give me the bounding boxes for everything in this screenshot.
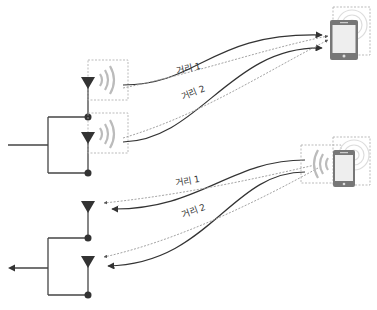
wave-icon [100,66,114,94]
junction-dot [85,292,92,299]
bottom-panel: 거리 1 거리 2 [8,137,370,299]
antenna-diagram: 거리 1 거리 2 [0,0,377,310]
tx-signal-paths [123,35,328,142]
antenna-icon [81,77,95,89]
label-distance-1: 거리 1 [175,61,201,76]
junction-dot [85,235,92,242]
rx-signal-paths [104,160,318,266]
wave-icon [314,150,328,178]
rx-phone [301,137,370,187]
tx-antenna-1 [81,60,128,100]
rx-feed-circuit [14,207,88,295]
antenna-icon [81,201,95,213]
tx-feed-circuit [8,82,88,173]
antenna-icon [81,132,95,144]
junction-dot [85,170,92,177]
tx-phone [330,7,370,60]
antenna-icon [81,256,95,268]
top-panel: 거리 1 거리 2 [8,7,370,177]
label-distance-2: 거리 2 [180,202,207,220]
tx-antenna-2 [81,113,128,153]
wave-icon [100,120,114,148]
output-arrow-icon [8,265,15,272]
label-distance-2: 거리 2 [180,83,207,101]
label-distance-1: 거리 1 [175,174,201,188]
